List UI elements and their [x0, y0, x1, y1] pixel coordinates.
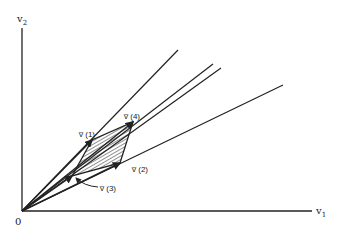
y-axis-label: v2 [16, 13, 27, 27]
vector-diagram: v2 v1 0 v̅ (1) v̅ (2) v̅ (3) v̅ (4) [0, 0, 337, 232]
origin-label: 0 [15, 216, 21, 227]
vector-v1 [22, 140, 92, 211]
x-axis-label: v1 [315, 205, 326, 219]
label-v4: v̅ (4) [123, 112, 140, 121]
label-v2: v̅ (2) [131, 165, 148, 174]
label-v3: v̅ (3) [99, 184, 116, 193]
label-v1: v̅ (1) [78, 130, 95, 139]
vector-v4 [22, 122, 133, 211]
